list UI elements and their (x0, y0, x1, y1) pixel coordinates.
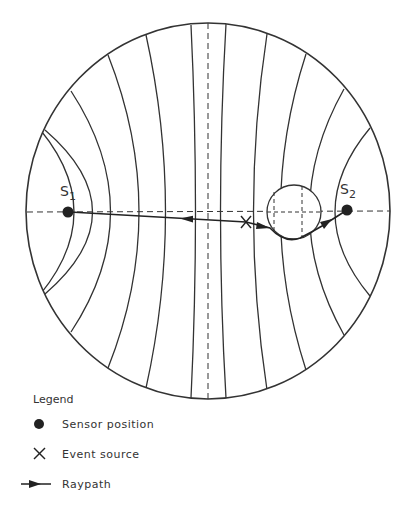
raypath-diagram: S1 S2 Legend Sensor position Event sourc… (0, 0, 410, 505)
legend-dot-icon (34, 419, 44, 429)
legend-cross-icon (34, 448, 45, 459)
sensor-s1-label: S1 (60, 183, 76, 203)
legend-item-sensor: Sensor position (62, 418, 154, 431)
legend-arrow-icon (21, 480, 51, 488)
sensor-s1-dot (63, 207, 74, 218)
arrow-up-right-icon (320, 219, 332, 229)
legend-item-raypath: Raypath (62, 478, 111, 491)
arrow-right-icon (256, 222, 270, 229)
sensor-s2-dot (342, 205, 353, 216)
legend-item-event: Event source (62, 448, 140, 461)
wavefront-right-1 (335, 128, 370, 296)
sensor-s2-label: S2 (340, 181, 356, 201)
arrow-left-icon (180, 216, 193, 223)
raypath-to-s1 (70, 212, 246, 222)
wavefront-right-4 (254, 34, 268, 390)
legend-title: Legend (33, 393, 73, 406)
legend: Legend Sensor position Event source Rayp… (21, 393, 154, 491)
